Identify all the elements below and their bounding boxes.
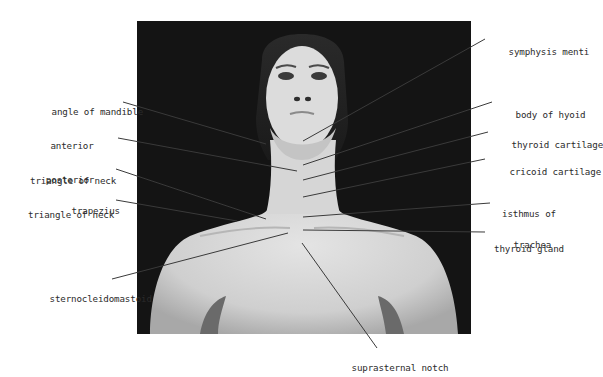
label-text: trachea bbox=[514, 239, 552, 250]
label-text: angle of mandible bbox=[52, 106, 143, 117]
label-text: thyroid cartilage bbox=[512, 139, 603, 150]
label-trachea: trachea bbox=[492, 227, 551, 262]
label-line-1: isthmus of bbox=[489, 208, 569, 220]
label-cricoid-cartilage: cricoid cartilage bbox=[488, 154, 601, 189]
label-sternocleidomastoid: sternocleidomastoid bbox=[28, 281, 152, 316]
label-text: suprasternal notch bbox=[352, 362, 449, 373]
label-text: cricoid cartilage bbox=[510, 166, 601, 177]
label-trapezius: trapezius bbox=[50, 193, 111, 228]
label-text: sternocleidomastoid bbox=[50, 293, 152, 304]
label-symphysis-menti: symphysis menti bbox=[487, 34, 589, 69]
label-text: trapezius bbox=[72, 205, 120, 216]
label-line-1: anterior bbox=[30, 140, 114, 152]
label-text: body of hyoid bbox=[516, 109, 586, 120]
label-line-1: posterior bbox=[28, 174, 112, 186]
label-text: symphysis menti bbox=[509, 46, 590, 57]
label-suprasternal-notch: suprasternal notch bbox=[330, 350, 448, 377]
